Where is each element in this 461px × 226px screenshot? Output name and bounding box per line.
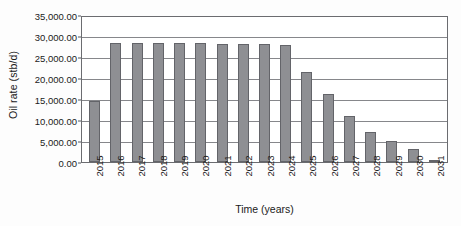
bar-slot (360, 17, 381, 162)
bar (132, 43, 143, 162)
bar (217, 44, 228, 162)
x-tick-slot: 2027 (339, 164, 360, 204)
bar-slot (339, 17, 360, 162)
bar (301, 72, 312, 162)
bar-slot (296, 17, 317, 162)
x-tick-slot: 2023 (254, 164, 275, 204)
y-axis-tick-labels: 0.005,000.0010,000.0015,000.0020,000.002… (24, 16, 81, 163)
bar-slot (211, 17, 232, 162)
y-tick-label: 5,000.00 (40, 137, 77, 148)
bar-slot (233, 17, 254, 162)
x-tick-label: 2021 (222, 155, 233, 176)
bar (323, 94, 334, 162)
x-tick-label: 2030 (414, 155, 425, 176)
x-tick-label: 2022 (243, 155, 254, 176)
y-tick-label: 10,000.00 (35, 116, 77, 127)
bar-slot (190, 17, 211, 162)
bar (238, 44, 249, 162)
x-tick-slot: 2025 (297, 164, 318, 204)
y-tick-label: 25,000.00 (35, 53, 77, 64)
y-tick-label: 35,000.00 (35, 11, 77, 22)
x-tick-slot: 2020 (190, 164, 211, 204)
bar-slot (148, 17, 169, 162)
y-tick-label: 30,000.00 (35, 32, 77, 43)
x-axis-tick-labels: 2015201620172018201920202021202220232024… (81, 164, 448, 204)
bar-slot (126, 17, 147, 162)
bar-slot (424, 17, 445, 162)
y-tick-label: 15,000.00 (35, 95, 77, 106)
x-tick-label: 2020 (200, 155, 211, 176)
x-tick-label: 2025 (307, 155, 318, 176)
x-tick-slot: 2015 (83, 164, 104, 204)
bar-slot (381, 17, 402, 162)
bar (259, 44, 270, 162)
bar (153, 43, 164, 162)
x-tick-label: 2023 (265, 155, 276, 176)
x-tick-label: 2031 (435, 155, 446, 176)
bar-slot (403, 17, 424, 162)
x-tick-slot: 2018 (147, 164, 168, 204)
bar-slot (84, 17, 105, 162)
bar (110, 43, 121, 162)
x-tick-label: 2024 (286, 155, 297, 176)
bar (195, 43, 206, 162)
x-tick-slot: 2029 (382, 164, 403, 204)
y-tick-label: 20,000.00 (35, 74, 77, 85)
x-tick-label: 2029 (393, 155, 404, 176)
y-axis-title-label: Oil rate (stb/d) (7, 51, 19, 119)
x-tick-slot: 2017 (126, 164, 147, 204)
x-tick-slot: 2026 (318, 164, 339, 204)
x-tick-slot: 2024 (275, 164, 296, 204)
bars-container (82, 17, 447, 162)
bar-slot (318, 17, 339, 162)
bar-slot (169, 17, 190, 162)
y-tick-label: 0.00 (59, 158, 78, 169)
x-tick-label: 2019 (179, 155, 190, 176)
bar-slot (105, 17, 126, 162)
x-tick-slot: 2016 (104, 164, 125, 204)
bar-slot (275, 17, 296, 162)
bar-slot (254, 17, 275, 162)
bar (280, 45, 291, 162)
x-tick-label: 2027 (350, 155, 361, 176)
x-tick-slot: 2021 (211, 164, 232, 204)
x-tick-label: 2026 (329, 155, 340, 176)
x-tick-label: 2016 (115, 155, 126, 176)
x-tick-slot: 2019 (168, 164, 189, 204)
x-tick-label: 2028 (371, 155, 382, 176)
x-tick-label: 2015 (94, 155, 105, 176)
x-tick-slot: 2031 (425, 164, 446, 204)
bar (89, 101, 100, 162)
bar (174, 43, 185, 162)
x-tick-slot: 2030 (403, 164, 424, 204)
x-tick-label: 2018 (158, 155, 169, 176)
x-tick-slot: 2022 (233, 164, 254, 204)
x-tick-label: 2017 (136, 155, 147, 176)
y-axis-title: Oil rate (stb/d) (2, 0, 24, 170)
plot-area (81, 16, 448, 163)
x-tick-slot: 2028 (361, 164, 382, 204)
oil-rate-bar-chart: Oil rate (stb/d) 0.005,000.0010,000.0015… (0, 0, 461, 226)
x-axis-title: Time (years) (81, 203, 448, 215)
